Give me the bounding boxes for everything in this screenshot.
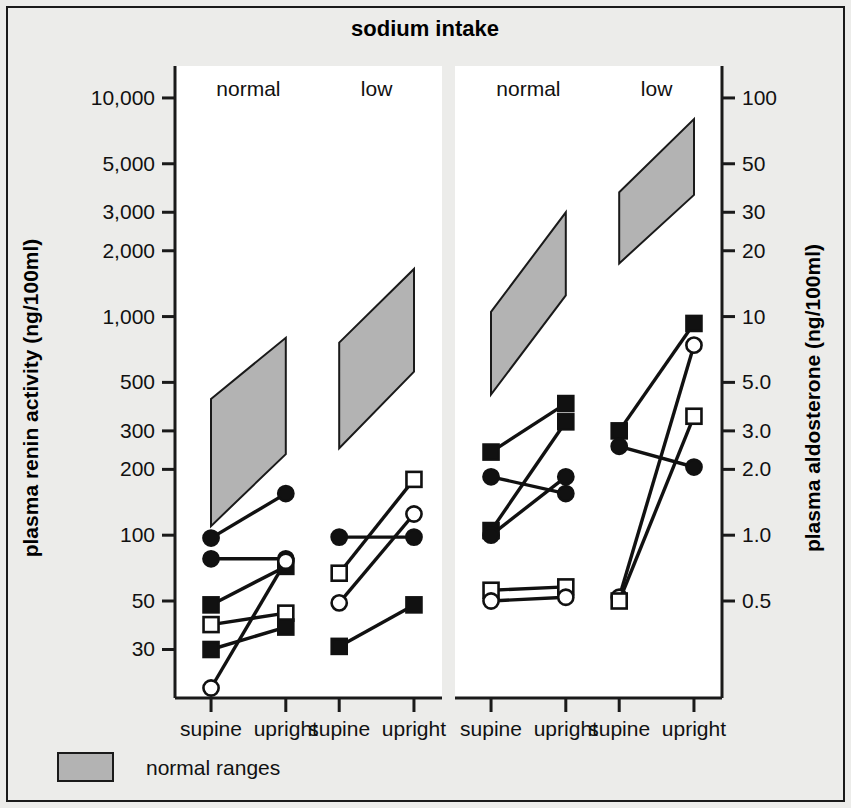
- marker-filled-square-plasma-aldosterone-patient-1-0: [484, 445, 499, 460]
- marker-filled-circle-plasma-aldosterone-patient-3-1: [558, 486, 573, 501]
- tick-label-left-3: 2,000: [102, 239, 155, 262]
- marker-open-square-plasma-renin-activity-patient-4-0: [204, 617, 219, 632]
- tick-label-right-5: 5.0: [742, 370, 771, 393]
- tick-label-right-4: 10: [742, 305, 765, 328]
- marker-open-square-plasma-renin-activity-patient-8-1: [406, 472, 421, 487]
- marker-filled-square-plasma-renin-activity-patient-5-0: [204, 642, 219, 657]
- group-label-plasma-renin-activity-normal: normal: [216, 77, 280, 100]
- marker-filled-circle-plasma-aldosterone-patient-8-1: [686, 459, 701, 474]
- marker-filled-square-plasma-aldosterone-patient-1-1: [558, 396, 573, 411]
- marker-open-circle-plasma-renin-activity-patient-9-1: [406, 506, 421, 521]
- marker-filled-circle-plasma-renin-activity-patient-1-0: [203, 530, 218, 545]
- marker-open-circle-plasma-aldosterone-patient-6-0: [483, 593, 498, 608]
- tick-label-left-5: 500: [120, 370, 155, 393]
- group-label-plasma-aldosterone-low: low: [641, 77, 673, 100]
- tick-label-left-7: 200: [120, 457, 155, 480]
- marker-filled-square-plasma-aldosterone-patient-7-0: [612, 423, 627, 438]
- tick-label-left-1: 5,000: [102, 152, 155, 175]
- tick-label-left-6: 300: [120, 419, 155, 442]
- tick-label-right-0: 100: [742, 86, 777, 109]
- tick-label-left-2: 3,000: [102, 200, 155, 223]
- marker-filled-square-plasma-renin-activity-patient-5-1: [278, 620, 293, 635]
- cat-label-plasma-renin-activity-2: supine: [308, 717, 370, 740]
- tick-label-left-10: 30: [132, 637, 155, 660]
- cat-label-plasma-renin-activity-0: supine: [180, 717, 242, 740]
- group-label-plasma-aldosterone-normal: normal: [496, 77, 560, 100]
- marker-open-square-plasma-renin-activity-patient-8-0: [332, 566, 347, 581]
- figure-root: sodium intake plasma renin activity (ng/…: [0, 0, 851, 808]
- figure-frame: sodium intake plasma renin activity (ng/…: [6, 6, 845, 802]
- page-title: sodium intake: [351, 16, 499, 41]
- cat-label-plasma-aldosterone-0: supine: [460, 717, 522, 740]
- tick-label-right-1: 50: [742, 152, 765, 175]
- marker-open-circle-plasma-renin-activity-patient-6-1: [278, 554, 293, 569]
- right-axis-title: plasma aldosterone (ng/100ml): [801, 244, 824, 552]
- chart-legend: normal ranges: [58, 753, 280, 781]
- panel-plasma-aldosterone: 100503020105.03.02.01.00.5normallowsupin…: [455, 66, 777, 740]
- group-label-plasma-renin-activity-low: low: [361, 77, 393, 100]
- marker-filled-circle-plasma-aldosterone-patient-3-0: [483, 469, 498, 484]
- marker-open-square-plasma-aldosterone-patient-10-0: [612, 593, 627, 608]
- chart-canvas: sodium intake plasma renin activity (ng/…: [8, 8, 843, 800]
- marker-filled-square-plasma-renin-activity-patient-3-0: [204, 597, 219, 612]
- tick-label-left-4: 1,000: [102, 305, 155, 328]
- tick-label-left-8: 100: [120, 523, 155, 546]
- left-axis-title: plasma renin activity (ng/100ml): [19, 239, 42, 558]
- marker-filled-square-plasma-aldosterone-patient-7-1: [686, 316, 701, 331]
- cat-label-plasma-aldosterone-2: supine: [588, 717, 650, 740]
- chart-body: 10,0005,0003,0002,0001,00050030020010050…: [91, 66, 777, 740]
- marker-filled-circle-plasma-renin-activity-patient-1-1: [278, 486, 293, 501]
- panel-plasma-renin-activity: 10,0005,0003,0002,0001,00050030020010050…: [91, 66, 446, 740]
- cat-label-plasma-renin-activity-3: upright: [382, 717, 446, 740]
- marker-open-square-plasma-aldosterone-patient-10-1: [686, 409, 701, 424]
- cat-label-plasma-aldosterone-3: upright: [662, 717, 726, 740]
- marker-open-circle-plasma-aldosterone-patient-6-1: [558, 590, 573, 605]
- marker-open-circle-plasma-renin-activity-patient-9-0: [332, 595, 347, 610]
- tick-label-right-7: 2.0: [742, 457, 771, 480]
- marker-filled-square-plasma-renin-activity-patient-10-0: [332, 639, 347, 654]
- marker-filled-circle-plasma-renin-activity-patient-7-1: [406, 530, 421, 545]
- tick-label-left-0: 10,000: [91, 86, 155, 109]
- tick-label-right-9: 0.5: [742, 589, 771, 612]
- tick-label-right-8: 1.0: [742, 523, 771, 546]
- legend-swatch-normal-ranges: [58, 753, 113, 781]
- marker-filled-circle-plasma-aldosterone-patient-8-0: [612, 439, 627, 454]
- marker-open-circle-plasma-aldosterone-patient-9-1: [686, 338, 701, 353]
- marker-filled-square-plasma-aldosterone-patient-2-1: [558, 414, 573, 429]
- marker-filled-circle-plasma-aldosterone-patient-4-0: [483, 528, 498, 543]
- tick-label-right-3: 20: [742, 239, 765, 262]
- marker-open-circle-plasma-renin-activity-patient-6-0: [203, 680, 218, 695]
- tick-label-left-9: 50: [132, 589, 155, 612]
- tick-label-right-2: 30: [742, 200, 765, 223]
- legend-label-normal-ranges: normal ranges: [146, 756, 280, 779]
- marker-filled-circle-plasma-aldosterone-patient-4-1: [558, 469, 573, 484]
- marker-filled-circle-plasma-renin-activity-patient-2-0: [203, 551, 218, 566]
- marker-filled-square-plasma-renin-activity-patient-10-1: [406, 597, 421, 612]
- tick-label-right-6: 3.0: [742, 419, 771, 442]
- marker-filled-circle-plasma-renin-activity-patient-7-0: [332, 530, 347, 545]
